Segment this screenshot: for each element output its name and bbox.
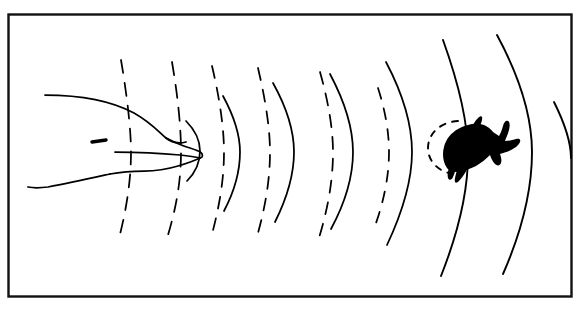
echolocation-figure: Dolphin echolocation diagram A dolphin e… [0,0,580,312]
diagram-canvas [0,0,580,312]
dolphin-eye [92,140,106,142]
